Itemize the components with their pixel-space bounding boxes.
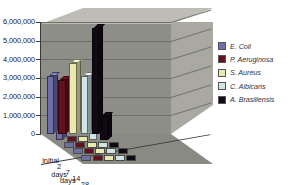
floor-marker [67,136,77,142]
bar-a-brasiliensis [92,28,99,134]
y-axis-tick [36,59,41,60]
bar-p-aeruginosa [58,80,65,134]
legend-item-label: P. Aeruginosa [230,55,273,64]
floor-marker [104,155,114,161]
y-axis-tick-label: 5,000,000 [3,36,35,45]
floor-marker [81,155,91,161]
y-axis-tick-label: 6,000,000 [3,17,35,26]
legend-item[interactable]: A. Brasiliensis [218,96,288,104]
bar-s-aureus [69,63,76,134]
legend-item-label: A. Brasiliensis [230,95,274,104]
floor-marker [126,155,136,161]
y-axis-tick-label: 4,000,000 [3,55,35,64]
floor-marker [78,136,88,142]
floor-marker [84,148,94,154]
y-axis-tick-label: 0 [31,129,35,138]
legend-item[interactable]: P. Aeruginosa [218,55,288,63]
legend-item-label: S. Aureus [230,68,261,77]
floor-marker [73,148,83,154]
floor-marker [106,148,116,154]
floor-marker [109,142,119,148]
y-axis-tick [36,22,41,23]
legend-swatch-icon [218,96,226,104]
y-axis-tick [36,115,41,116]
y-axis-labels: 01,000,0002,000,0003,000,0004,000,0005,0… [0,0,35,185]
x-axis-tick-label: 28days [69,181,101,185]
y-axis-tick [36,134,41,135]
y-axis-tick-label: 1,000,000 [3,111,35,120]
legend-item-label: C. Albicans [230,82,266,91]
gridline [41,41,171,42]
bar-chart: 01,000,0002,000,0003,000,0004,000,0005,0… [0,0,288,185]
gridline [41,22,171,23]
legend-item-label: E. Coli [230,42,251,51]
floor-marker [98,142,108,148]
legend-swatch-icon [218,82,226,90]
floor-marker [95,148,105,154]
y-axis-tick-label: 2,000,000 [3,92,35,101]
floor-marker [115,155,125,161]
legend-item[interactable]: C. Albicans [218,82,288,90]
floor-marker [87,142,97,148]
gridline [41,59,171,60]
y-axis-tick-label: 3,000,000 [3,73,35,82]
legend-item[interactable]: S. Aureus [218,69,288,77]
bar-face [81,76,88,134]
legend-swatch-icon [218,69,226,77]
bar-e-coli [47,76,54,134]
y-axis-tick [36,78,41,79]
floor-marker [64,142,74,148]
y-axis-tick [36,41,41,42]
legend-item[interactable]: E. Coli [218,42,288,50]
floor-marker [93,155,103,161]
bar-face [69,63,76,134]
bar-side [108,112,112,140]
y-axis-tick [36,97,41,98]
bar-side [99,24,103,134]
legend-swatch-icon [218,55,226,63]
chart-legend: E. ColiP. AeruginosaS. AureusC. Albicans… [218,42,288,109]
plot-area: 01,000,0002,000,0003,000,0004,000,0005,0… [0,0,210,185]
floor-marker [75,142,85,148]
bar-face [58,80,65,134]
legend-swatch-icon [218,42,226,50]
floor-marker [118,148,128,154]
bar-c-albicans [81,76,88,134]
